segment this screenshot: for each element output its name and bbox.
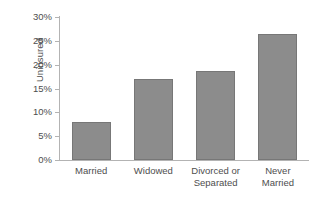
bar	[258, 34, 297, 160]
y-axis-tick	[55, 65, 59, 66]
y-axis-tick-label-wrap: 10%	[0, 107, 52, 117]
bar	[196, 71, 235, 160]
bar-chart: Uninsured 30%25%20%15%10%5%0% MarriedWid…	[0, 0, 317, 200]
y-axis-tick-label-wrap: 0%	[0, 155, 52, 165]
y-axis-tick-label: 10%	[0, 107, 52, 117]
x-axis-label-line: Married	[233, 177, 317, 189]
y-axis-tick-label-wrap: 15%	[0, 84, 52, 94]
y-axis-tick-label: 5%	[0, 131, 52, 141]
y-axis-tick	[55, 136, 59, 137]
y-axis-tick-label-wrap: 30%	[0, 12, 52, 22]
y-axis-tick-label-wrap: 25%	[0, 36, 52, 46]
bar	[72, 122, 111, 160]
y-axis-tick	[55, 41, 59, 42]
x-axis-label: NeverMarried	[233, 165, 317, 188]
y-axis-tick	[55, 17, 59, 18]
bars-container	[60, 17, 309, 160]
y-axis-tick-label: 0%	[0, 155, 52, 165]
y-axis-tick	[55, 89, 59, 90]
y-axis-tick	[55, 160, 59, 161]
bar	[134, 79, 173, 160]
x-axis-line	[59, 160, 309, 161]
y-axis-tick-label: 15%	[0, 84, 52, 94]
y-axis-tick-label-wrap: 20%	[0, 60, 52, 70]
y-axis-tick-label: 20%	[0, 60, 52, 70]
y-axis-tick-label-wrap: 5%	[0, 131, 52, 141]
y-axis-tick-label: 25%	[0, 36, 52, 46]
y-axis-tick-label: 30%	[0, 12, 52, 22]
x-axis-label-line: Never	[233, 165, 317, 177]
y-axis-tick	[55, 112, 59, 113]
